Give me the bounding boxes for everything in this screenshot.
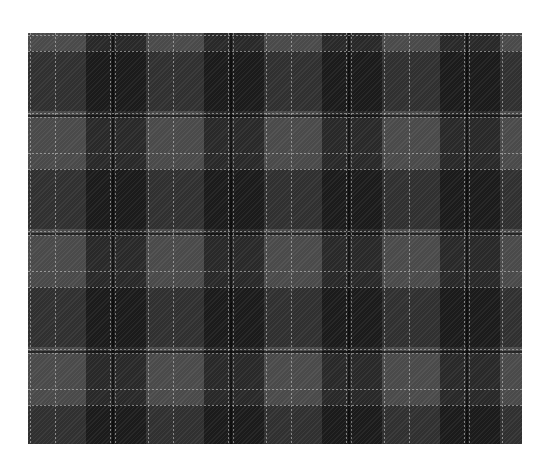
- horizontal-light-lines: [28, 33, 522, 444]
- plaid-fabric-swatch: [28, 33, 522, 444]
